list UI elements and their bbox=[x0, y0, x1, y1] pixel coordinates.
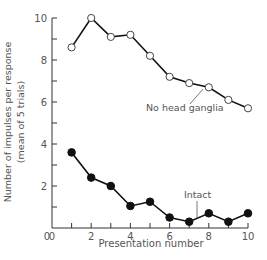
x-tick-label: 8 bbox=[206, 231, 212, 242]
axes: 02468102468100 bbox=[34, 13, 254, 242]
x-axis-title: Presentation number bbox=[98, 238, 204, 249]
annotations: No head gangliaIntact bbox=[146, 89, 224, 218]
annotation-label: No head ganglia bbox=[146, 102, 224, 113]
y-axis-title: Number of impulses per response bbox=[2, 42, 13, 203]
y-tick-label: 2 bbox=[41, 181, 47, 192]
line-chart: 02468102468100 No head gangliaIntact Pre… bbox=[0, 0, 267, 260]
series-line bbox=[72, 18, 248, 108]
filled-circle-marker bbox=[185, 218, 193, 226]
filled-circle-marker bbox=[244, 210, 252, 218]
open-circle-marker bbox=[68, 44, 75, 51]
open-circle-marker bbox=[186, 80, 193, 87]
filled-circle-marker bbox=[87, 174, 95, 182]
series-no-head-ganglia bbox=[68, 14, 252, 112]
y-tick-label: 4 bbox=[41, 139, 47, 150]
y-tick-label: 10 bbox=[34, 13, 47, 24]
origin-label: 0 bbox=[44, 231, 50, 242]
open-circle-marker bbox=[244, 105, 251, 112]
x-tick-label: 2 bbox=[88, 231, 94, 242]
filled-circle-marker bbox=[205, 210, 213, 218]
filled-circle-marker bbox=[127, 202, 135, 210]
open-circle-marker bbox=[146, 52, 153, 59]
filled-circle-marker bbox=[225, 218, 233, 226]
series-intact bbox=[68, 149, 252, 226]
filled-circle-marker bbox=[146, 198, 154, 206]
filled-circle-marker bbox=[166, 214, 174, 222]
series-layer bbox=[68, 14, 252, 225]
y-tick-label: 8 bbox=[41, 55, 47, 66]
y-axis-subtitle: (mean of 5 trials) bbox=[15, 81, 26, 163]
series-line bbox=[72, 152, 248, 221]
open-circle-marker bbox=[127, 31, 134, 38]
filled-circle-marker bbox=[68, 149, 76, 157]
annotation-label: Intact bbox=[184, 189, 212, 200]
open-circle-marker bbox=[88, 14, 95, 21]
y-tick-label: 6 bbox=[41, 97, 47, 108]
open-circle-marker bbox=[166, 73, 173, 80]
open-circle-marker bbox=[225, 96, 232, 103]
x-tick-label: 10 bbox=[242, 231, 255, 242]
open-circle-marker bbox=[107, 33, 114, 40]
open-circle-marker bbox=[205, 84, 212, 91]
filled-circle-marker bbox=[107, 182, 115, 190]
